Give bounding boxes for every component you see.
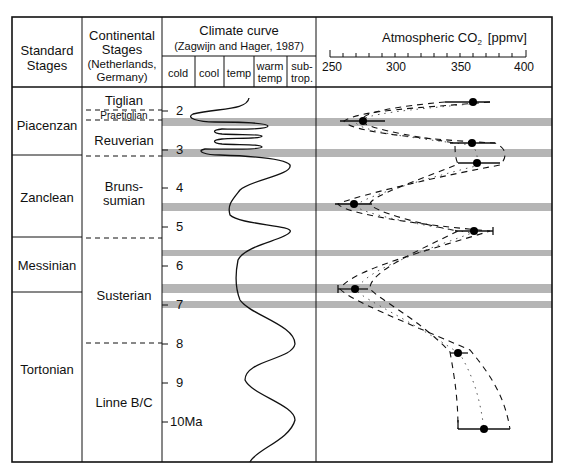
climate-sub: sub- bbox=[291, 60, 313, 72]
continental-header-3: (Netherlands, bbox=[87, 58, 156, 70]
climate-trop: trop. bbox=[291, 72, 313, 84]
stage-tiglian: Tiglian bbox=[105, 93, 143, 108]
climate-temp: temp bbox=[227, 67, 251, 79]
age-5: 5 bbox=[176, 219, 183, 234]
age-7: 7 bbox=[176, 297, 183, 312]
climate-warm: warm bbox=[256, 60, 284, 72]
stage-susterian: Susterian bbox=[97, 288, 152, 303]
cold-bands bbox=[162, 118, 552, 308]
co2-points bbox=[350, 98, 488, 433]
climate-citation: (Zagwijn and Hager, 1987) bbox=[174, 40, 304, 52]
continental-header-1: Continental bbox=[89, 28, 155, 43]
stage-tortonian: Tortonian bbox=[20, 362, 73, 377]
continental-header-4: Germany) bbox=[96, 71, 147, 83]
stage-bruns-2: sumian bbox=[103, 193, 145, 208]
stage-zanclean: Zanclean bbox=[20, 190, 73, 205]
age-10ma: 10Ma bbox=[170, 414, 203, 429]
age-2: 2 bbox=[176, 103, 183, 118]
age-8: 8 bbox=[176, 336, 183, 351]
age-9: 9 bbox=[176, 375, 183, 390]
standard-header-2: Stages bbox=[27, 58, 68, 73]
stage-bruns-1: Bruns- bbox=[105, 179, 143, 194]
stage-reuverian: Reuverian bbox=[94, 133, 153, 148]
climate-cool: cool bbox=[199, 67, 219, 79]
age-ticks bbox=[162, 111, 168, 422]
co2-axis bbox=[330, 50, 526, 57]
tick-400: 400 bbox=[514, 60, 534, 74]
co2-title: Atmospheric CO2[ppmv] bbox=[382, 30, 527, 47]
climate-warm-temp: temp bbox=[258, 72, 282, 84]
age-3: 3 bbox=[176, 142, 183, 157]
tick-250: 250 bbox=[322, 60, 342, 74]
age-6: 6 bbox=[176, 258, 183, 273]
continental-header-2: Stages bbox=[102, 42, 143, 57]
stage-linne: Linne B/C bbox=[95, 395, 152, 410]
tick-350: 350 bbox=[451, 60, 471, 74]
tick-300: 300 bbox=[386, 60, 406, 74]
climate-title: Climate curve bbox=[199, 23, 278, 38]
standard-header-1: Standard bbox=[21, 43, 74, 58]
age-4: 4 bbox=[176, 180, 183, 195]
co2-climate-chart: Standard Stages Continental Stages (Neth… bbox=[0, 0, 562, 476]
stage-messinian: Messinian bbox=[18, 258, 77, 273]
stage-piacenzan: Piacenzan bbox=[17, 118, 78, 133]
climate-cold: cold bbox=[168, 67, 188, 79]
stage-praetiglian: Praetiglian bbox=[100, 110, 147, 121]
